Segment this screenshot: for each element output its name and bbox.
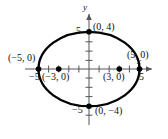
point-label-top-vertex: (0, 4) — [93, 22, 115, 32]
y-tick-label-minus-5: −5 — [72, 105, 83, 115]
y-axis-arrow-icon — [86, 14, 92, 20]
plot-canvas — [0, 0, 168, 139]
point-label-left-vertex: (−5, 0) — [8, 53, 35, 63]
point-label-right-focus: (3, 0) — [103, 72, 125, 82]
ellipse-figure: x y 5 −5 −5 5 (0, 4) (0, −4) (−5, 0) (5,… — [0, 0, 168, 139]
x-axis-arrow-icon — [146, 66, 152, 72]
y-tick-label-5: 5 — [76, 26, 81, 36]
point-label-left-focus: (−3, 0) — [42, 72, 69, 82]
point-label-bottom-vertex: (0, −4) — [95, 106, 122, 116]
point-label-right-vertex: (5, 0) — [127, 50, 149, 60]
x-tick-label-5: 5 — [139, 72, 144, 82]
x-tick-label-minus-5: −5 — [29, 72, 40, 82]
y-axis-label: y — [83, 3, 87, 12]
point-top-vertex — [86, 29, 92, 35]
point-bottom-vertex — [86, 103, 92, 109]
